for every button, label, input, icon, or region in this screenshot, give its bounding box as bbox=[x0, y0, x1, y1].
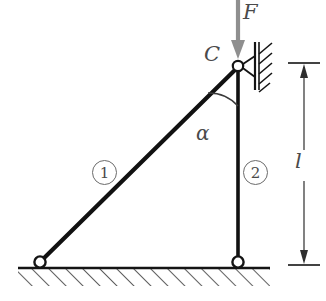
length-label-l: l bbox=[295, 151, 302, 172]
pin-joint-c bbox=[233, 61, 243, 71]
length-dimension-l bbox=[288, 63, 320, 265]
pinned-support-right bbox=[232, 256, 243, 267]
ground bbox=[18, 268, 270, 286]
diagonal-bar-1 bbox=[40, 67, 238, 262]
statics-truss-figure: F C α l 1 2 bbox=[0, 0, 326, 301]
joint-label-C: C bbox=[204, 44, 220, 65]
wall-support-c bbox=[255, 42, 272, 92]
angle-label-alpha: α bbox=[196, 123, 210, 143]
force-label-F: F bbox=[243, 2, 258, 23]
figure-canvas bbox=[0, 0, 326, 301]
member-label-2: 2 bbox=[243, 160, 268, 185]
member-label-1: 1 bbox=[92, 160, 117, 185]
pinned-support-left bbox=[34, 256, 45, 267]
